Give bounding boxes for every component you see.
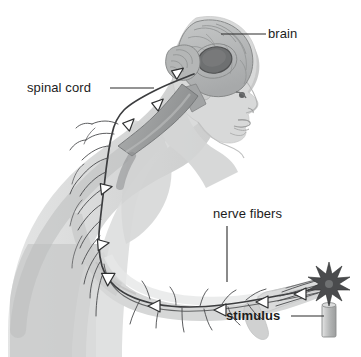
label-brain: brain <box>268 27 297 41</box>
nervous-system-diagram <box>0 0 361 357</box>
label-nerve-fibers: nerve fibers <box>213 207 282 221</box>
label-spinal-cord: spinal cord <box>27 81 91 95</box>
illustration-canvas: brain spinal cord nerve fibers stimulus <box>0 0 361 357</box>
stimulus-candle <box>308 262 350 337</box>
label-stimulus: stimulus <box>226 309 280 323</box>
cerebellum <box>166 45 200 80</box>
